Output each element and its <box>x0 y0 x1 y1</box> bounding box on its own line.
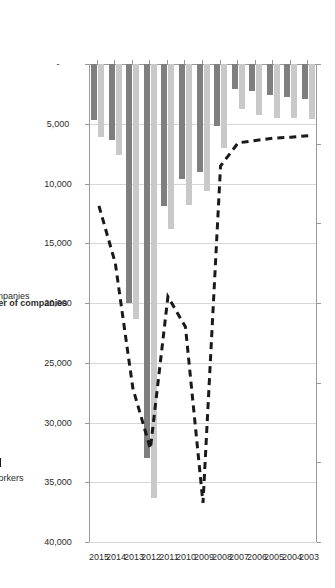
affected-workers-line <box>89 64 317 542</box>
legend-label: Affected workers <box>0 473 45 483</box>
category-tick <box>97 60 98 64</box>
axis-tick <box>85 423 89 424</box>
gridline <box>89 542 317 543</box>
category-tick <box>184 60 185 64</box>
axis-tick <box>317 144 321 145</box>
axis-tick <box>85 243 89 244</box>
chart-figure: -100,000200,000300,000400,000500,000600,… <box>0 0 335 588</box>
axis-tick-label: - <box>34 59 82 69</box>
axis-tick-label: 600,000 <box>330 537 335 547</box>
category-tick <box>202 60 203 64</box>
axis-tick <box>317 383 321 384</box>
axis-tick <box>85 64 89 65</box>
category-tick <box>255 60 256 64</box>
axis-tick-label: - <box>330 59 335 69</box>
legend-label: Affected companies <box>0 291 45 301</box>
category-tick <box>290 60 291 64</box>
axis-tick <box>317 303 321 304</box>
axis-tick-label: 500,000 <box>330 457 335 467</box>
axis-tick <box>85 184 89 185</box>
axis-tick-label: 100,000 <box>330 139 335 149</box>
axis-tick <box>317 462 321 463</box>
category-tick <box>149 60 150 64</box>
axis-tick-label: 400,000 <box>330 378 335 388</box>
axis-tick <box>85 542 89 543</box>
axis-tick <box>317 223 321 224</box>
axis-tick <box>85 363 89 364</box>
category-tick <box>272 60 273 64</box>
category-tick <box>114 60 115 64</box>
category-tick <box>132 60 133 64</box>
axis-tick <box>85 124 89 125</box>
workers-trend-line <box>98 136 308 503</box>
category-tick <box>167 60 168 64</box>
axis-tick <box>85 303 89 304</box>
legend-label: Total <box>0 121 45 131</box>
legend-dash-segment <box>0 458 1 467</box>
axis-tick-label: 40,000 <box>34 537 82 547</box>
axis-tick-label: 15,000 <box>34 238 82 248</box>
workers-axis-title: Number of workers <box>328 298 335 308</box>
axis-tick-label: 30,000 <box>34 418 82 428</box>
category-tick <box>237 60 238 64</box>
axis-tick <box>317 64 321 65</box>
year-label: 2015 <box>86 552 112 562</box>
axis-tick-label: 10,000 <box>34 179 82 189</box>
axis-tick <box>85 482 89 483</box>
axis-tick-label: 200,000 <box>330 218 335 228</box>
axis-tick-label: 25,000 <box>34 358 82 368</box>
axis-tick <box>317 542 321 543</box>
category-tick <box>307 60 308 64</box>
category-tick <box>220 60 221 64</box>
